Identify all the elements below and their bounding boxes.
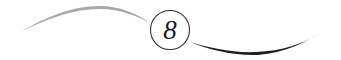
left-swoosh — [22, 6, 150, 31]
chapter-number: 8 — [150, 10, 190, 50]
right-swoosh — [190, 33, 320, 55]
